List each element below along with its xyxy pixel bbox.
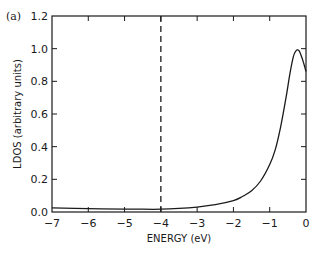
x-axis-tick-labels: −7−6−5−4−3−2−10 (44, 217, 310, 230)
x-tick-label: −5 (116, 217, 132, 230)
panel-label: (a) (6, 10, 21, 23)
y-tick-label: 1.2 (31, 10, 49, 23)
x-tick-label: −4 (153, 217, 169, 230)
x-tick-label: −3 (189, 217, 205, 230)
y-tick-label: 0.0 (31, 206, 49, 219)
y-tick-label: 1.0 (31, 43, 49, 56)
ldos-chart: −7−6−5−4−3−2−10 0.00.20.40.60.81.01.2 (a… (0, 0, 324, 253)
y-tick-label: 0.2 (31, 173, 49, 186)
chart-series (52, 50, 306, 209)
y-axis-label: LDOS (arbitrary units) (12, 59, 23, 169)
y-axis-ticks (52, 49, 306, 180)
y-tick-label: 0.4 (31, 141, 49, 154)
x-axis-label: ENERGY (eV) (147, 233, 211, 244)
x-tick-label: −2 (225, 217, 241, 230)
x-tick-label: −6 (80, 217, 96, 230)
y-tick-label: 0.8 (31, 75, 49, 88)
ldos-curve (52, 50, 306, 209)
x-tick-label: −1 (262, 217, 278, 230)
x-tick-label: 0 (303, 217, 310, 230)
y-tick-label: 0.6 (31, 108, 49, 121)
y-axis-tick-labels: 0.00.20.40.60.81.01.2 (31, 10, 49, 219)
plot-frame (52, 16, 306, 212)
x-axis-ticks (88, 16, 269, 212)
